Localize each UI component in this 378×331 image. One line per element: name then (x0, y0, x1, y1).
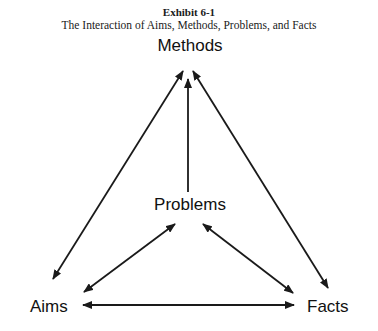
node-problems: Problems (140, 195, 240, 215)
arrow-aims-methods (53, 71, 183, 279)
arrow-facts-methods (193, 71, 328, 288)
diagram: Exhibit 6-1 The Interaction of Aims, Met… (0, 0, 378, 331)
node-methods: Methods (150, 36, 230, 56)
node-facts: Facts (307, 297, 349, 317)
arrow-problems-facts (203, 224, 293, 293)
node-aims: Aims (30, 297, 68, 317)
arrow-problems-aims (84, 224, 175, 292)
